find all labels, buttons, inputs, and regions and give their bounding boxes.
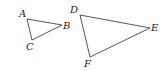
vertex-label-a: A xyxy=(18,8,26,19)
triangle-def: D E F xyxy=(69,4,159,69)
vertex-label-e: E xyxy=(150,22,159,33)
triangle-abc-shape xyxy=(27,19,62,40)
vertex-label-d: D xyxy=(69,4,78,15)
diagram-canvas: A B C D E F xyxy=(0,0,164,71)
triangle-abc: A B C xyxy=(18,8,70,52)
vertex-label-b: B xyxy=(62,20,70,31)
triangle-def-shape xyxy=(80,15,150,57)
vertex-label-f: F xyxy=(83,58,92,69)
vertex-label-c: C xyxy=(26,41,34,52)
